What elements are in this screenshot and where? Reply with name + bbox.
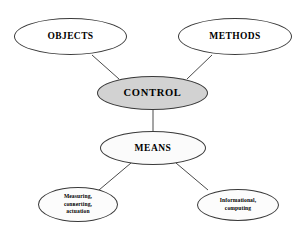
node-control[interactable]: CONTROL <box>97 76 208 110</box>
node-informational-computing[interactable]: Informational, computing <box>197 189 279 221</box>
node-measuring-converting-actuation[interactable]: Measuring, conвerting, actuation <box>38 187 118 222</box>
node-methods-label: METHODS <box>209 31 260 41</box>
node-measuring-label: Measuring, conвerting, actuation <box>64 193 92 216</box>
node-means-label: MEANS <box>135 143 172 153</box>
edge-means-to-measuring <box>99 163 131 190</box>
node-control-label: CONTROL <box>124 87 182 98</box>
edge-methods-to-control <box>187 55 212 79</box>
node-methods[interactable]: METHODS <box>178 18 292 55</box>
concept-map-diagram: OBJECTS METHODS CONTROL MEANS Measuring,… <box>0 0 304 230</box>
edge-means-to-informational <box>176 163 208 190</box>
node-means[interactable]: MEANS <box>100 131 206 165</box>
edge-objects-to-control <box>92 55 119 79</box>
node-objects-label: OBJECTS <box>47 31 93 41</box>
node-objects[interactable]: OBJECTS <box>14 18 127 55</box>
node-informational-label: Informational, computing <box>220 197 256 212</box>
